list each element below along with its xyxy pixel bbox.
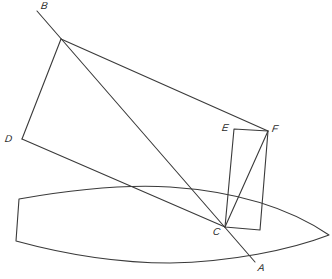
label-B: B [40,1,48,11]
line-VD [22,39,61,139]
label-D: D [4,134,13,144]
label-E: E [221,123,229,133]
label-C: C [212,227,221,237]
label-A: A [257,263,265,273]
hull-outline [16,186,329,263]
line-VF [61,39,268,131]
line-DC [22,139,225,227]
diagram-canvas: B D E F C A [0,0,332,279]
line-BA [37,11,255,262]
construction-diagram [0,0,332,279]
